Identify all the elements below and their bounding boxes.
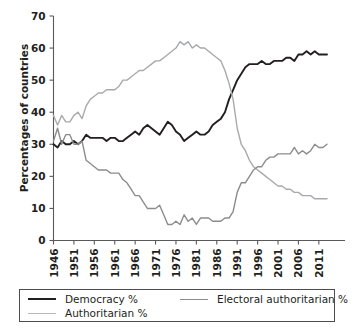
svg-text:1981: 1981	[190, 249, 202, 278]
svg-text:1961: 1961	[109, 249, 121, 278]
svg-text:2011: 2011	[313, 249, 325, 278]
svg-text:1996: 1996	[252, 249, 264, 278]
legend-swatch-electoral-authoritarian	[180, 299, 208, 300]
y-axis-ticks: 010203040506070	[31, 10, 54, 247]
svg-text:2001: 2001	[272, 249, 284, 278]
svg-text:1971: 1971	[150, 249, 162, 278]
series-line-democracy	[54, 51, 328, 147]
svg-text:1986: 1986	[211, 249, 223, 278]
svg-text:1976: 1976	[170, 249, 182, 278]
legend-label-electoral-authoritarian: Electoral authoritarian %	[217, 293, 348, 305]
svg-text:20: 20	[31, 170, 46, 182]
svg-text:1951: 1951	[68, 249, 80, 278]
svg-text:1991: 1991	[231, 249, 243, 278]
svg-text:50: 50	[31, 74, 46, 86]
svg-text:2006: 2006	[292, 249, 304, 278]
series-line-authoritarian	[54, 42, 328, 199]
legend-item-democracy: Democracy %	[28, 293, 138, 305]
x-axis-ticks: 1946195119561961196619711976198119861991…	[48, 241, 325, 278]
svg-text:40: 40	[31, 106, 46, 118]
line-chart-plot: 010203040506070 194619511956196119661971…	[0, 0, 354, 292]
legend-swatch-authoritarian	[28, 313, 56, 314]
data-series-group	[54, 42, 328, 225]
chart-legend: Democracy % Authoritarian % Electoral au…	[19, 289, 335, 322]
axis-lines	[54, 16, 346, 241]
series-line-electoral-authoritarian	[54, 128, 328, 224]
legend-item-authoritarian: Authoritarian %	[28, 307, 147, 319]
chart-figure: Percentages of countries 010203040506070…	[0, 0, 354, 329]
svg-text:1966: 1966	[129, 249, 141, 278]
svg-text:1946: 1946	[48, 249, 60, 278]
svg-text:30: 30	[31, 138, 46, 150]
svg-text:10: 10	[31, 202, 46, 214]
svg-text:1956: 1956	[88, 249, 100, 278]
svg-text:70: 70	[31, 10, 46, 22]
svg-text:0: 0	[38, 234, 45, 246]
legend-item-electoral-authoritarian: Electoral authoritarian %	[180, 293, 348, 305]
legend-label-democracy: Democracy %	[65, 293, 138, 305]
svg-text:60: 60	[31, 42, 46, 54]
legend-swatch-democracy	[28, 298, 56, 300]
legend-label-authoritarian: Authoritarian %	[65, 307, 147, 319]
